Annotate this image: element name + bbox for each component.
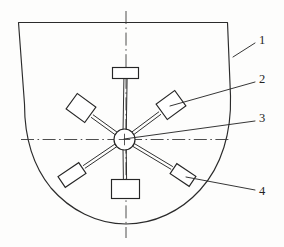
callout-label-4: 4 (259, 184, 266, 198)
callout-group: 1234 (124, 33, 266, 198)
callout-leader-1 (233, 43, 255, 57)
bottom-blade-plate (112, 180, 140, 199)
figure-root: 1234 (0, 0, 284, 247)
callout-leader-4 (186, 177, 255, 190)
lower-left-blade-plate (58, 163, 86, 188)
top-blade-plate (113, 68, 139, 79)
callout-label-1: 1 (259, 33, 265, 47)
callout-leader-2 (170, 82, 255, 106)
callout-label-3: 3 (259, 111, 265, 125)
impeller-cross-section-diagram: 1234 (0, 0, 284, 247)
lower-right-blade-plate (170, 164, 196, 187)
callout-label-2: 2 (259, 72, 265, 86)
